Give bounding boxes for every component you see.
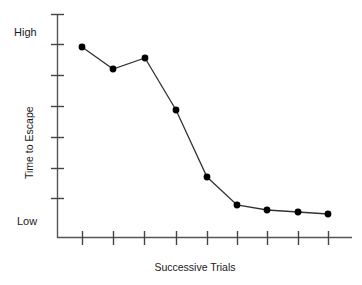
data-point <box>142 55 149 62</box>
data-point <box>79 44 86 51</box>
data-point <box>295 209 302 216</box>
data-point <box>173 107 180 114</box>
y-axis-low-label: Low <box>17 215 37 227</box>
line-chart-canvas: High Low Time to Escape Successive Trial… <box>0 0 362 285</box>
y-axis-title: Time to Escape <box>23 106 35 179</box>
data-point <box>325 211 332 218</box>
chart-figure: High Low Time to Escape Successive Trial… <box>0 0 362 285</box>
data-point-markers <box>79 44 332 218</box>
data-point <box>204 174 211 181</box>
data-point <box>110 66 117 73</box>
x-axis-title: Successive Trials <box>154 261 235 273</box>
y-axis-high-label: High <box>14 26 37 38</box>
data-point <box>264 207 271 214</box>
data-line <box>82 47 328 214</box>
data-point <box>234 202 241 209</box>
